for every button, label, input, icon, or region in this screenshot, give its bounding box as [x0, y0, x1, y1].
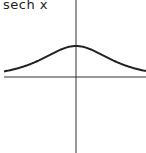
plot-area: [0, 0, 146, 153]
sech-curve: [4, 46, 146, 71]
